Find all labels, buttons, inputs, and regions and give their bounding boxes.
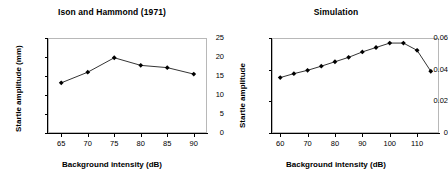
data-point-marker [59,80,64,85]
x-tick-label: 90 [358,140,366,148]
y-tick-mark [269,101,272,102]
y-tick-mark [45,114,48,115]
series-plot [224,0,448,175]
series-line [61,58,194,83]
y-tick-label: 0.04 [404,66,448,74]
x-tick-mark [335,134,336,137]
y-tick-label: 0.02 [404,97,448,105]
y-tick-mark [45,133,48,134]
data-point-marker [415,48,420,53]
y-tick-label: 20 [180,53,224,61]
chart-panel-ison-hammond: Ison and Hammond (1971) 0510152025657075… [0,0,224,175]
data-point-marker [319,64,324,69]
x-tick-label: 85 [163,140,171,148]
y-tick-mark [269,70,272,71]
y-tick-mark [45,38,48,39]
x-tick-label: 100 [383,140,396,148]
data-point-marker [85,70,90,75]
y-tick-mark [45,57,48,58]
x-tick-mark [61,134,62,137]
series-plot [0,0,224,175]
y-tick-label: 0.06 [404,34,448,42]
x-tick-mark [280,134,281,137]
x-tick-label: 75 [110,140,118,148]
data-point-marker [333,59,338,64]
data-point-marker [165,65,170,70]
data-point-marker [112,55,117,60]
y-tick-label: 5 [180,110,224,118]
x-tick-mark [417,134,418,137]
y-tick-mark [45,95,48,96]
x-tick-label: 70 [84,140,92,148]
chart-panel-simulation: Simulation 00.020.040.0660708090100110 S… [224,0,448,175]
y-tick-label: 10 [180,91,224,99]
x-tick-label: 110 [411,140,423,148]
x-axis-title: Background intensity (dB) [0,160,224,169]
x-tick-label: 90 [190,140,198,148]
y-axis-title: Startle amplitude (mm) [14,45,23,132]
x-tick-mark [88,134,89,137]
data-point-marker [138,63,143,68]
x-axis-title: Background intensity (dB) [224,160,448,169]
x-tick-mark [308,134,309,137]
x-tick-label: 80 [137,140,145,148]
data-point-marker [374,45,379,50]
data-point-marker [346,55,351,60]
x-tick-mark [362,134,363,137]
x-tick-mark [167,134,168,137]
x-tick-mark [114,134,115,137]
x-tick-label: 65 [57,140,65,148]
x-tick-mark [194,134,195,137]
y-tick-mark [269,133,272,134]
data-point-marker [278,75,283,80]
y-tick-label: 15 [180,72,224,80]
y-tick-mark [45,76,48,77]
x-tick-label: 80 [331,140,339,148]
data-point-marker [360,50,365,55]
x-tick-label: 70 [303,140,311,148]
data-point-marker [387,41,392,46]
y-tick-label: 0 [404,129,448,137]
y-tick-mark [269,38,272,39]
y-axis-title: Startle amplitude [238,63,247,128]
x-tick-mark [141,134,142,137]
y-tick-label: 0 [180,129,224,137]
figure-two-panel-charts: Ison and Hammond (1971) 0510152025657075… [0,0,448,175]
data-point-marker [305,68,310,73]
x-tick-label: 60 [276,140,284,148]
x-tick-mark [390,134,391,137]
y-tick-label: 25 [180,34,224,42]
data-point-marker [292,71,297,76]
